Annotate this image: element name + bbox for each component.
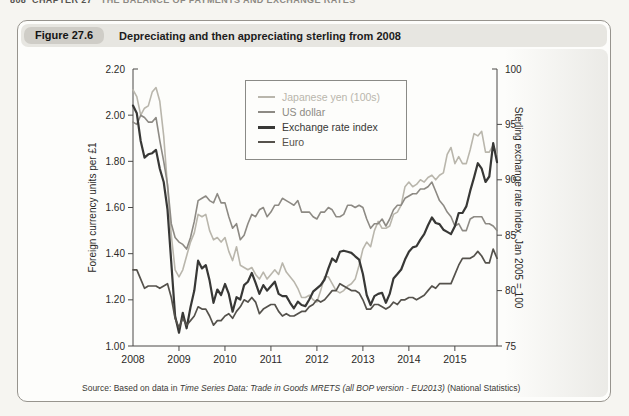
x-axis-tick-label: 2013	[351, 353, 375, 365]
figure-title: Depreciating and then appreciating sterl…	[119, 30, 401, 42]
left-axis-tick-label: 1.20	[106, 294, 126, 305]
legend-item: Exchange rate index	[258, 121, 396, 133]
x-axis-tick-label: 2015	[443, 353, 467, 365]
page-number: 808	[10, 0, 26, 5]
x-axis-tick-label: 2011	[260, 353, 283, 365]
legend-swatch-eri	[258, 126, 275, 129]
legend-swatch-usd	[258, 111, 275, 113]
x-axis-tick-label: 2010	[213, 353, 237, 365]
legend-swatch-euro	[258, 141, 275, 143]
source-prefix: Source: Based on data in	[82, 383, 180, 393]
left-axis-tick-label: 1.80	[106, 156, 126, 167]
legend-label-eri: Exchange rate index	[282, 121, 378, 133]
right-axis-tick-label: 75	[505, 341, 517, 352]
x-axis-tick-label: 2014	[397, 353, 421, 365]
legend-swatch-yen	[258, 96, 275, 98]
x-axis-tick-label: 2009	[167, 353, 191, 365]
figure-header-bar: Figure 27.6 Depreciating and then apprec…	[21, 24, 607, 47]
chapter-label: CHAPTER 27	[32, 0, 92, 5]
source-note: Source: Based on data in Time Series Dat…	[82, 383, 602, 393]
source-dataset: Time Series Data: Trade in Goods MRETS (…	[180, 383, 445, 393]
legend-item: Japanese yen (100s)	[258, 91, 396, 103]
left-axis-tick-label: 1.40	[106, 248, 126, 259]
chapter-title: THE BALANCE OF PAYMENTS AND EXCHANGE RAT…	[101, 0, 356, 5]
chart-legend: Japanese yen (100s) US dollar Exchange r…	[245, 80, 407, 160]
series-line-3	[133, 249, 497, 327]
figure-box: Figure 27.6 Depreciating and then apprec…	[17, 20, 611, 402]
source-suffix: (National Statistics)	[445, 383, 521, 393]
left-axis-tick-label: 1.60	[106, 202, 126, 213]
legend-label-usd: US dollar	[282, 106, 325, 118]
left-axis-title: Foreign currency units per £1	[87, 142, 98, 273]
page-running-header: 808 CHAPTER 27 THE BALANCE OF PAYMENTS A…	[10, 0, 620, 7]
right-axis-tick-label: 100	[505, 64, 522, 75]
legend-item: US dollar	[258, 106, 396, 118]
x-axis-tick-label: 2012	[305, 353, 329, 365]
x-axis-tick-label: 2008	[121, 353, 145, 365]
left-axis-tick-label: 2.20	[106, 64, 126, 75]
legend-label-euro: Euro	[282, 136, 304, 148]
chart-area: 2.202.001.801.601.401.201.00100959085807…	[19, 49, 610, 379]
legend-label-yen: Japanese yen (100s)	[282, 91, 380, 103]
left-axis-tick-label: 1.00	[106, 341, 126, 352]
right-axis-title: Sterling exchange rate index, Jan 2005 =…	[513, 107, 524, 309]
legend-item: Euro	[258, 136, 396, 148]
figure-number-pill: Figure 27.6	[24, 27, 104, 44]
left-axis-tick-label: 2.00	[106, 110, 126, 121]
